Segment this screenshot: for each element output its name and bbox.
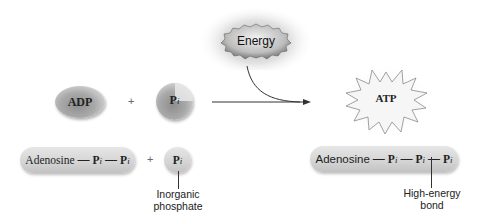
high-energy-bond-label: High-energy bond bbox=[400, 187, 464, 211]
plus-sign-bottom: + bbox=[147, 153, 153, 165]
inorganic-phosphate-label: Inorganic phosphate bbox=[150, 188, 206, 212]
atp-synthesis-diagram: Energy ADP + Pi ATP Adenosine — Pi — Pi … bbox=[0, 0, 483, 224]
adp-structure-pill: Adenosine — Pi — Pi bbox=[20, 147, 135, 173]
phosphate-structure-pill: Pi bbox=[164, 147, 191, 173]
atp-structure-pill: Adenosine — Pi — Pi — Pi bbox=[310, 146, 458, 172]
atp-label: ATP bbox=[366, 92, 406, 104]
high-energy-bond-leader-line bbox=[431, 157, 432, 188]
high-energy-bond: — bbox=[428, 152, 440, 166]
inorganic-phosphate-leader-line bbox=[178, 171, 179, 189]
